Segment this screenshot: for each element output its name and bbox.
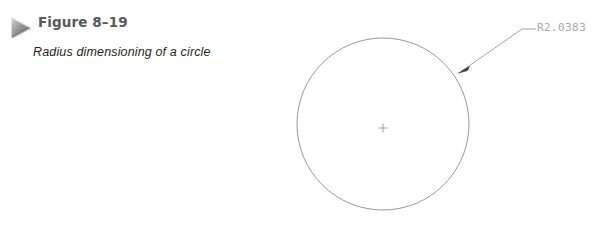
leader-arrowhead-icon <box>458 66 469 73</box>
figure-container: Figure 8–19 Radius dimensioning of a cir… <box>0 0 607 228</box>
center-mark-icon <box>379 124 388 133</box>
cad-drawing-canvas <box>0 0 607 228</box>
radius-dimension-label: R2.0383 <box>537 21 586 34</box>
radius-leader-line <box>461 29 536 72</box>
